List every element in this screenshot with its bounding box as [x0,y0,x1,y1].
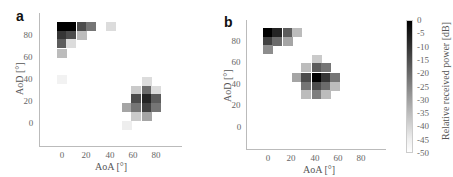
colorbar-tick-label: -15 [417,55,429,65]
y-axis-title-b: AoD [°] [222,69,233,102]
colorbar-tick-label: -20 [417,68,429,78]
x-axis-a [39,146,182,147]
ytick-0: 0 [237,122,242,132]
heatmap-cell [57,75,67,84]
ytick-60: 60 [24,52,33,62]
heatmap-cell [122,121,132,130]
y-axis-b [246,20,247,149]
colorbar-tick-label: -45 [417,135,429,145]
heatmap-cell [151,103,161,112]
heatmap-cell [321,63,331,72]
heatmap-cell [301,63,311,72]
panel-label-a: a [16,8,24,24]
y-axis-a [39,13,40,146]
xtick-20: 20 [82,150,91,160]
heatmap-cell [57,49,67,58]
xtick-60: 60 [334,153,343,163]
ytick-0: 0 [29,118,34,128]
colorbar-tick-label: -35 [417,108,429,118]
xtick-0: 0 [266,153,271,163]
xtick-40: 40 [106,150,115,160]
heatmap-cell [66,31,76,40]
ytick-80: 80 [232,36,241,46]
ytick-60: 60 [232,57,241,67]
xtick-40: 40 [311,153,320,163]
xtick-20: 20 [287,153,296,163]
x-axis-title-b: AoA [°] [303,164,335,175]
colorbar-tick-label: 0 [417,15,422,25]
colorbar-tick-label: -10 [417,42,429,52]
heatmap-cell [301,90,311,99]
heatmap-cell [272,37,282,46]
xtick-60: 60 [129,150,138,160]
colorbar-tick-label: -40 [417,121,429,131]
colorbar-tick-label: -30 [417,95,429,105]
ytick-80: 80 [24,30,33,40]
heatmap-cell [263,45,273,54]
y-axis-title-a: AoD [°] [14,62,25,95]
heatmap-cell [66,22,76,31]
heatmap-cell [131,103,141,112]
heatmap-cell [330,82,340,91]
ytick-20: 20 [24,96,33,106]
colorbar-tick-label: -25 [417,82,429,92]
colorbar-tick-label: -50 [417,148,429,158]
heatmap-cell [321,90,331,99]
x-axis-b [246,149,386,150]
x-axis-title-a: AoA [°] [95,161,127,172]
colorbar-title: Relative received power [dB] [440,22,451,140]
heatmap-cell [131,86,141,95]
heatmap-cell [151,86,161,95]
heatmap-cell [142,112,152,121]
xtick-0: 0 [60,150,65,160]
colorbar-gradient [406,20,413,153]
heatmap-cell [292,28,302,37]
heatmap-cell [283,37,293,46]
panel-label-b: b [224,14,233,30]
heatmap-cell [77,31,87,40]
heatmap-cell [151,94,161,103]
heatmap-cell [131,112,141,121]
xtick-80: 80 [152,150,161,160]
heatmap-cell [106,22,116,31]
colorbar-tick-label: -5 [417,28,425,38]
heatmap-cell [142,77,152,86]
heatmap-cell [86,22,96,31]
heatmap-cell [131,94,141,103]
xtick-80: 80 [357,153,366,163]
heatmap-cell [66,39,76,48]
